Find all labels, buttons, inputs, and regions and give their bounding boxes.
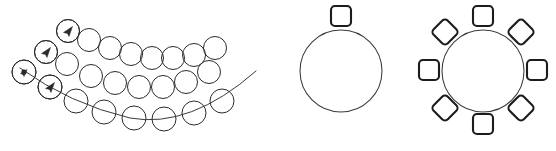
figure-canvas: [0, 0, 556, 151]
rounded-square-left: [419, 60, 439, 80]
left-marker-circle-1: [57, 20, 80, 43]
rounded-square-top-left: [431, 18, 459, 46]
left-marker-circle-3: [12, 60, 36, 84]
right-panel-circle-eight-squares: [419, 6, 547, 134]
circle-outline: [120, 43, 143, 66]
left-row-top-circles: [57, 20, 227, 70]
rounded-square-bottom-right: [507, 94, 535, 122]
pointer-arrow-icon: [64, 27, 73, 37]
circle-outline: [162, 47, 185, 70]
rounded-square-top: [331, 6, 351, 26]
circle-outline: [300, 30, 382, 112]
rounded-square-bottom: [473, 114, 493, 134]
circle-outline: [78, 29, 101, 52]
circle-outline: [122, 106, 146, 130]
rounded-square-bottom-left: [431, 94, 459, 122]
circle-outline: [442, 30, 524, 112]
left-panel-packed-circle-arcs: [12, 20, 256, 132]
circle-outline: [152, 76, 175, 99]
circle-outline: [128, 76, 151, 99]
circle-outline: [204, 37, 227, 60]
circle-outline: [99, 37, 122, 60]
circle-outline: [198, 61, 221, 84]
circle-outline: [64, 89, 88, 113]
circle-outline: [92, 100, 116, 124]
rounded-square-top-right: [507, 18, 535, 46]
figure-svg: [0, 0, 556, 151]
circle-outline: [104, 72, 127, 95]
circle-outline: [182, 101, 206, 125]
rounded-square-top: [473, 6, 493, 26]
left-marker-circle-2: [35, 41, 58, 64]
rounded-square-right: [527, 60, 547, 80]
circle-outline: [80, 65, 103, 88]
pointer-arrow-icon: [46, 83, 55, 93]
circle-outline: [56, 53, 79, 76]
left-marker-circle-4: [38, 75, 62, 99]
circle-outline: [175, 71, 198, 94]
left-row-middle-circles: [35, 41, 221, 99]
pointer-arrow-icon: [42, 48, 51, 58]
middle-panel-single-circle-one-square: [300, 6, 382, 112]
left-row-bottom-circles: [12, 60, 234, 131]
circle-outline: [141, 47, 164, 70]
